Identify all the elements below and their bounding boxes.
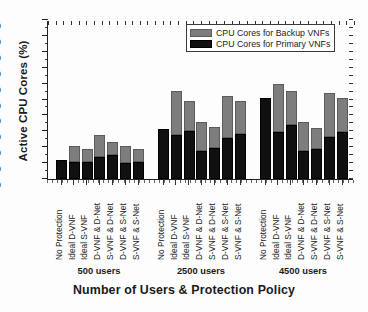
y-tick-100 <box>42 19 48 20</box>
x-axis-ticks <box>47 180 353 185</box>
bar-2-2[interactable] <box>286 91 297 179</box>
bar-0-3[interactable] <box>94 135 105 180</box>
y-tick-minor-65 <box>45 75 49 76</box>
x-tick-minor <box>338 180 339 183</box>
bar-segment-primary <box>235 134 246 179</box>
bar-segment-primary <box>184 131 195 179</box>
bar-segment-primary <box>107 155 118 179</box>
x-tick-minor <box>175 180 176 183</box>
y-tick-minor-75 <box>45 59 49 60</box>
legend-label-primary: CPU Cores for Primary VNFs <box>216 39 330 49</box>
group-label-1: 2500 users <box>157 266 245 276</box>
x-tick-minor <box>200 180 201 183</box>
bar-1-2[interactable] <box>184 101 195 179</box>
x-tick-minor <box>185 180 186 183</box>
right-frame-tick <box>349 138 353 139</box>
bar-segment-backup <box>82 149 93 162</box>
bar-1-1[interactable] <box>171 91 182 179</box>
x-tick-minor <box>159 180 160 183</box>
x-tick-minor <box>180 180 181 183</box>
bar-segment-backup <box>171 91 182 136</box>
right-frame-tick <box>349 43 353 44</box>
x-tick-minor <box>98 180 99 183</box>
bar-1-5[interactable] <box>222 96 233 179</box>
x-tick-label-0-0: No Protection <box>54 210 64 260</box>
right-frame-tick <box>349 178 353 179</box>
bar-segment-backup <box>273 84 284 132</box>
x-tick-minor <box>205 180 206 183</box>
x-tick-minor <box>226 180 227 183</box>
bar-1-0[interactable] <box>158 129 169 179</box>
x-tick-minor <box>261 180 262 183</box>
bar-group-0 <box>56 21 144 179</box>
right-frame-tick <box>349 83 353 84</box>
bar-segment-primary <box>337 132 348 179</box>
bar-2-3[interactable] <box>298 122 309 179</box>
x-tick-minor <box>322 180 323 183</box>
bar-1-6[interactable] <box>235 101 246 179</box>
x-tick-minor <box>271 180 272 183</box>
chart-figure: Active CPU Cores (%) 0102030405060708090… <box>0 0 368 312</box>
right-frame-tick <box>349 162 353 163</box>
x-tick-mark <box>329 180 330 185</box>
x-tick-minor <box>118 180 119 183</box>
y-tick-80 <box>42 51 48 52</box>
bar-segment-primary <box>273 132 284 179</box>
bar-0-4[interactable] <box>107 142 118 179</box>
x-tick-minor <box>307 180 308 183</box>
x-tick-minor <box>277 180 278 183</box>
x-tick-label-2-5: D-VNF & S-Net <box>322 203 332 260</box>
x-tick-minor <box>348 180 349 183</box>
legend-swatch-backup <box>190 29 212 37</box>
bar-segment-primary <box>171 135 182 179</box>
bar-segment-primary <box>133 162 144 179</box>
x-tick-minor <box>287 180 288 183</box>
x-tick-mark <box>227 180 228 185</box>
y-tick-minor-95 <box>45 27 49 28</box>
bar-segment-backup <box>94 135 105 157</box>
y-tick-0 <box>42 178 48 179</box>
bar-segment-backup <box>69 146 80 163</box>
bar-2-0[interactable] <box>260 98 271 179</box>
top-frame-tick <box>354 21 355 25</box>
bar-2-6[interactable] <box>337 98 348 179</box>
x-tick-minor <box>144 180 145 183</box>
x-tick-minor <box>67 180 68 183</box>
bar-2-5[interactable] <box>324 93 335 179</box>
x-tick-label-1-0: No Protection <box>156 210 166 260</box>
bar-segment-primary <box>94 157 105 179</box>
bar-2-4[interactable] <box>311 128 322 179</box>
right-frame-tick <box>349 114 353 115</box>
x-tick-minor <box>256 180 257 183</box>
x-tick-label-1-2: Ideal S-VNF <box>181 215 191 260</box>
right-frame-tick <box>349 51 353 52</box>
x-tick-label-0-5: D-VNF & S-Net <box>118 203 128 260</box>
bar-0-0[interactable] <box>56 160 67 179</box>
x-tick-minor <box>312 180 313 183</box>
x-tick-minor <box>236 180 237 183</box>
y-tick-10 <box>42 162 48 163</box>
x-tick-minor <box>317 180 318 183</box>
bar-0-2[interactable] <box>82 149 93 179</box>
bar-segment-backup <box>222 96 233 138</box>
group-label-2: 4500 users <box>259 266 347 276</box>
y-tick-60 <box>42 83 48 84</box>
bar-1-4[interactable] <box>209 127 220 179</box>
y-axis-title: Active CPU Cores (%) <box>17 16 29 186</box>
x-tick-minor <box>113 180 114 183</box>
x-tick-minor <box>93 180 94 183</box>
bar-0-6[interactable] <box>133 149 144 179</box>
x-axis-title: Number of Users & Protection Policy <box>0 283 368 297</box>
bar-0-1[interactable] <box>69 146 80 179</box>
bar-0-5[interactable] <box>120 146 131 179</box>
top-frame-tick <box>147 21 148 25</box>
right-frame-tick <box>349 59 353 60</box>
bar-2-1[interactable] <box>273 84 284 179</box>
group-label-0: 500 users <box>55 266 143 276</box>
x-tick-minor <box>210 180 211 183</box>
x-tick-label-1-4: S-VNF & D-Net <box>207 203 217 260</box>
bar-1-3[interactable] <box>196 122 207 179</box>
x-tick-label-1-1: Ideal D-VNF <box>169 214 179 260</box>
bar-segment-backup <box>286 91 297 125</box>
x-tick-minor <box>154 180 155 183</box>
